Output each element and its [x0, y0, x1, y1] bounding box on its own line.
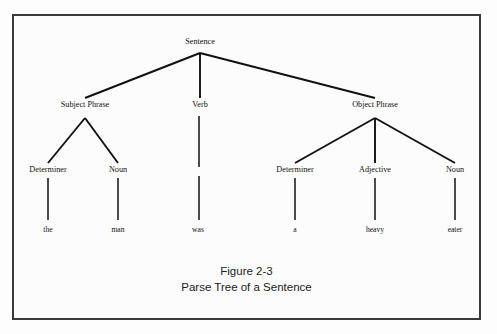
figure-caption: Figure 2-3 Parse Tree of a Sentence: [12, 264, 481, 295]
edge-sentence-to-object-phrase: [200, 53, 375, 98]
node-subject-phrase: Subject Phrase: [61, 100, 110, 109]
node-noun-object: Noun: [446, 165, 464, 174]
caption-title: Figure 2-3: [12, 264, 481, 280]
edge-subject-to-noun: [85, 118, 118, 163]
node-determiner-object: Determiner: [276, 165, 314, 174]
figure-container: Sentence Subject Phrase Verb Object Phra…: [0, 0, 497, 334]
node-sentence: Sentence: [185, 37, 215, 46]
edge-object-to-determiner: [295, 118, 375, 163]
leaf-heavy: heavy: [366, 225, 384, 234]
node-noun-subject: Noun: [109, 165, 127, 174]
node-verb: Verb: [192, 100, 207, 109]
leaf-was: was: [192, 225, 204, 234]
caption-subtitle: Parse Tree of a Sentence: [12, 280, 481, 296]
leaf-the: the: [43, 225, 53, 234]
edge-object-to-noun: [375, 118, 455, 163]
leaf-eater: eater: [448, 225, 463, 234]
node-determiner-subject: Determiner: [29, 165, 67, 174]
edge-subject-to-determiner: [48, 118, 85, 163]
leaf-a: a: [293, 225, 297, 234]
edge-sentence-to-subject-phrase: [85, 53, 200, 98]
leaf-man: man: [111, 225, 124, 234]
node-object-phrase: Object Phrase: [352, 100, 398, 109]
node-adjective: Adjective: [359, 165, 391, 174]
